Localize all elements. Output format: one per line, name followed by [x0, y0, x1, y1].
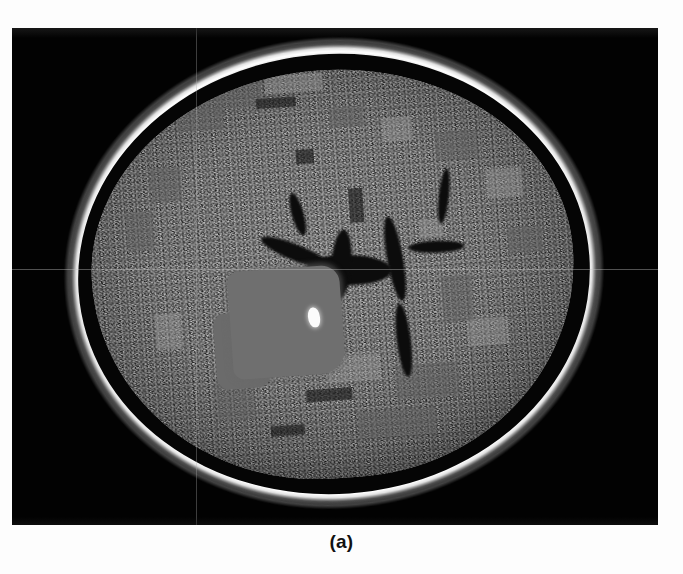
tissue-block: [381, 116, 413, 142]
tissue-block: [295, 149, 314, 164]
tissue-block: [150, 166, 182, 202]
tissue-block: [176, 107, 223, 132]
tissue-block: [154, 313, 182, 351]
crosshair-horizontal-line: [12, 269, 658, 270]
tissue-block: [440, 274, 473, 322]
crosshair-vertical-line: [196, 28, 197, 525]
tissue-block: [467, 316, 509, 347]
tissue-block: [348, 188, 364, 223]
tissue-block: [328, 106, 363, 128]
figure-caption: (a): [0, 531, 683, 553]
head-layer: [12, 28, 658, 525]
tissue-block: [507, 225, 543, 253]
tissue-block: [485, 167, 523, 199]
figure-panel-root: (a): [0, 0, 683, 574]
tissue-block: [196, 81, 262, 111]
tissue-block: [434, 130, 478, 161]
tissue-block: [125, 211, 154, 253]
brain-parenchyma: [78, 54, 587, 495]
brain-scan-image: [12, 28, 658, 525]
tissue-block: [358, 407, 438, 438]
lesion-patch: [227, 265, 346, 381]
